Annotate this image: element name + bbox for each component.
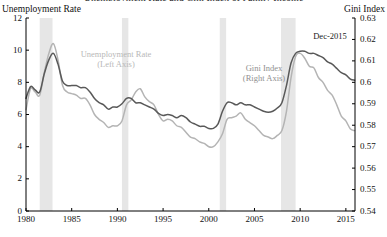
unemployment-series-label: Unemployment Rate(Left Axis) [71, 49, 161, 69]
right-ytick-label-7: 0.61 [360, 56, 387, 65]
left-ytick-label-6: 12 [0, 14, 22, 23]
left-ytick-label-1: 2 [0, 174, 22, 183]
right-ytick-label-3: 0.57 [360, 142, 387, 151]
gini-series-label: Gini Index(Right Axis) [219, 63, 309, 83]
right-ytick-label-9: 0.63 [360, 14, 387, 23]
xtick-label-6: 2010 [284, 215, 316, 224]
right-ytick-label-5: 0.59 [360, 99, 387, 108]
right-ytick-label-4: 0.58 [360, 121, 387, 130]
recession-band-1 [122, 18, 128, 211]
xtick-label-3: 1995 [147, 215, 179, 224]
unemployment-series-label-line2: (Left Axis) [71, 59, 161, 69]
dec-2015-marker: Dec-2015 [285, 31, 375, 41]
dec-2015-marker-line1: Dec-2015 [285, 31, 375, 41]
unemployment-series-label-line1: Unemployment Rate [71, 49, 161, 59]
left-ytick-label-2: 4 [0, 142, 22, 151]
xtick-label-1: 1985 [56, 215, 88, 224]
xtick-label-5: 2005 [238, 215, 270, 224]
right-ytick-label-1: 0.55 [360, 185, 387, 194]
xtick-label-2: 1990 [101, 215, 133, 224]
chart-figure: Unemployment Rate and Gini Index of Fami… [0, 0, 387, 237]
right-ytick-label-2: 0.56 [360, 164, 387, 173]
xtick-label-0: 1980 [10, 215, 42, 224]
right-ytick-label-6: 0.6 [360, 78, 387, 87]
left-ytick-label-4: 8 [0, 78, 22, 87]
xtick-label-7: 2015 [330, 215, 362, 224]
gini-series-label-line1: Gini Index [219, 63, 309, 73]
left-ytick-label-3: 6 [0, 110, 22, 119]
recession-band-3 [281, 18, 296, 211]
right-ytick-label-0: 0.54 [360, 207, 387, 216]
gini-series-label-line2: (Right Axis) [219, 73, 309, 83]
xtick-label-4: 2000 [193, 215, 225, 224]
left-ytick-label-5: 10 [0, 46, 22, 55]
